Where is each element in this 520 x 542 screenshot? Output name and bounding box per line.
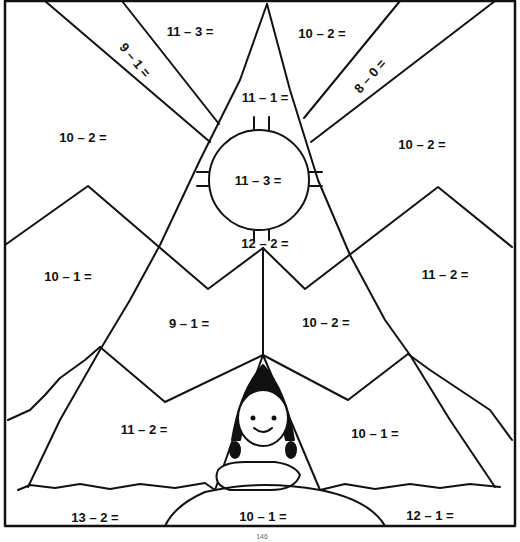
grass-line-right — [320, 484, 500, 490]
hill-left — [8, 347, 100, 420]
ray-line — [304, 1, 400, 118]
equation-label-10[interactable]: 11 – 2 = — [422, 267, 469, 282]
ray-line — [45, 1, 210, 142]
mountain-zigzag-right — [263, 187, 512, 289]
equation-label-6[interactable]: 10 – 2 = — [398, 137, 445, 152]
worksheet-frame — [5, 1, 515, 526]
equation-label-7[interactable]: 11 – 3 = — [235, 173, 282, 188]
girl-eye — [252, 417, 255, 420]
equation-label-9[interactable]: 10 – 1 = — [44, 269, 91, 284]
equation-label-14[interactable]: 10 – 1 = — [351, 426, 398, 441]
equation-label-5[interactable]: 10 – 2 = — [59, 130, 106, 145]
grass-line-left — [18, 483, 215, 490]
equation-label-17[interactable]: 12 – 1 = — [406, 508, 453, 523]
equation-label-2[interactable]: 10 – 2 = — [298, 26, 345, 41]
girl-braid — [230, 442, 240, 458]
girl-eye — [273, 417, 276, 420]
equation-label-15[interactable]: 13 – 2 = — [71, 510, 118, 525]
equation-label-11[interactable]: 9 – 1 = — [169, 316, 209, 331]
equation-label-0[interactable]: 11 – 3 = — [167, 24, 214, 39]
girl-face — [238, 390, 288, 446]
equation-label-4[interactable]: 11 – 1 = — [242, 90, 289, 105]
girl-braid — [286, 442, 296, 458]
page-number: 146 — [256, 533, 268, 540]
teepee-left-side — [28, 4, 267, 487]
equation-label-8[interactable]: 12 – 2 = — [241, 236, 288, 251]
teepee-right-side — [267, 4, 495, 487]
ray-line — [311, 1, 495, 142]
equation-label-12[interactable]: 10 – 2 = — [302, 315, 349, 330]
equation-label-13[interactable]: 11 – 2 = — [121, 422, 168, 437]
hill-right — [408, 354, 512, 440]
equation-label-16[interactable]: 10 – 1 = — [239, 509, 286, 524]
